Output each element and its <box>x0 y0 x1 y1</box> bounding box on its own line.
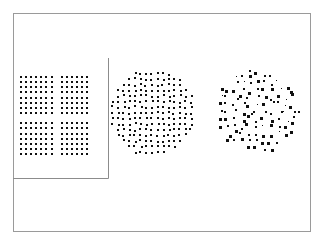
dot-pattern-figure <box>0 0 324 240</box>
figure-root <box>0 0 324 240</box>
